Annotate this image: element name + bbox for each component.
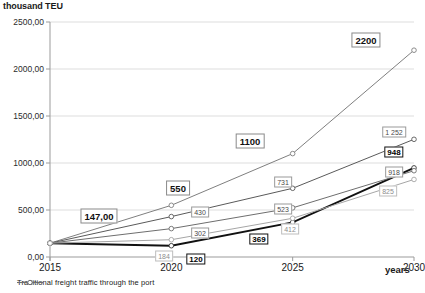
data-point bbox=[290, 151, 295, 156]
data-point bbox=[412, 168, 417, 173]
data-label: 523 bbox=[274, 204, 292, 215]
data-label: 1 252 bbox=[382, 127, 406, 138]
data-label: 731 bbox=[274, 177, 292, 188]
data-label: 120 bbox=[186, 254, 205, 265]
data-label: 369 bbox=[249, 234, 268, 245]
data-label: 918 bbox=[385, 167, 403, 178]
data-point bbox=[169, 237, 174, 242]
data-point bbox=[412, 137, 417, 142]
data-point bbox=[412, 48, 417, 53]
data-label: 184 bbox=[155, 251, 173, 262]
data-point bbox=[290, 216, 295, 221]
data-label: 302 bbox=[191, 228, 209, 239]
data-point bbox=[412, 177, 417, 182]
data-label: 2200 bbox=[351, 33, 380, 48]
data-label: 948 bbox=[384, 147, 403, 158]
data-point bbox=[169, 226, 174, 231]
data-point bbox=[48, 241, 53, 246]
data-point bbox=[169, 214, 174, 219]
data-point bbox=[169, 243, 174, 248]
data-label: 550 bbox=[166, 181, 190, 196]
data-label: 1100 bbox=[236, 134, 265, 149]
series-line-series-4 bbox=[50, 171, 414, 243]
data-label: 412 bbox=[281, 224, 299, 235]
legend-marker-icon bbox=[17, 278, 43, 287]
data-label: 825 bbox=[379, 186, 397, 197]
series-line-series-2 bbox=[50, 139, 414, 243]
data-point bbox=[169, 203, 174, 208]
legend: Traditional freight traffic through the … bbox=[17, 278, 154, 287]
data-label: 430 bbox=[191, 207, 209, 218]
data-label: 147,00 bbox=[80, 209, 117, 224]
